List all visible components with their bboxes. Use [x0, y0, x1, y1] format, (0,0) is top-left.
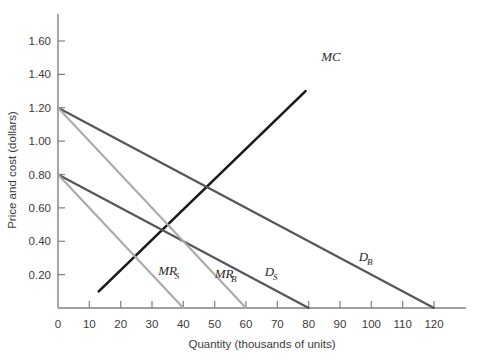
x-axis-ticks [89, 301, 434, 308]
series-label-subscript: B [367, 257, 373, 267]
x-tick-label: 110 [393, 318, 411, 330]
y-tick-label: 1.00 [29, 135, 51, 147]
series-label-d-s: DS [264, 264, 278, 282]
chart-series-lines [58, 91, 434, 308]
axis-lines [58, 14, 466, 308]
x-tick-label: 30 [146, 318, 159, 330]
x-tick-label: 90 [334, 318, 347, 330]
x-tick-label: 50 [208, 318, 221, 330]
y-tick-label: 1.20 [29, 102, 51, 114]
x-tick-label: 60 [240, 318, 253, 330]
series-label-mr-s: MRS [157, 263, 179, 281]
y-tick-label: 0.20 [29, 269, 51, 281]
y-tick-label: 1.60 [29, 35, 51, 47]
y-tick-label: 0.40 [29, 235, 51, 247]
y-tick-label: 1.40 [29, 68, 51, 80]
series-label-d-b: DB [358, 249, 373, 267]
series-label-mc: MC [320, 49, 341, 64]
y-axis-ticks [58, 41, 65, 275]
chart-plot-area: 0.200.400.600.801.001.201.401.60 0102030… [0, 0, 485, 359]
series-label-subscript: S [175, 271, 180, 281]
x-tick-label: 70 [271, 318, 284, 330]
series-line-mr-s [58, 175, 183, 309]
chart-figure: 0.200.400.600.801.001.201.401.60 0102030… [0, 0, 485, 359]
x-tick-label: 0 [55, 318, 61, 330]
series-line-d-b [58, 108, 434, 308]
y-axis-tick-labels: 0.200.400.600.801.001.201.401.60 [29, 35, 51, 281]
y-axis-title: Price and cost (dollars) [6, 111, 18, 229]
x-axis-title: Quantity (thousands of units) [188, 338, 335, 350]
y-tick-label: 0.60 [29, 202, 51, 214]
x-tick-label: 100 [362, 318, 381, 330]
x-tick-label: 20 [114, 318, 127, 330]
x-tick-label: 40 [177, 318, 190, 330]
series-label-text: MC [320, 49, 341, 64]
y-tick-label: 0.80 [29, 169, 51, 181]
x-tick-label: 10 [83, 318, 96, 330]
series-label-subscript: S [273, 272, 278, 282]
series-label-subscript: B [231, 274, 237, 284]
x-tick-label: 80 [302, 318, 315, 330]
x-axis-tick-labels: 0102030405060708090100110120 [55, 318, 444, 330]
x-tick-label: 120 [424, 318, 443, 330]
